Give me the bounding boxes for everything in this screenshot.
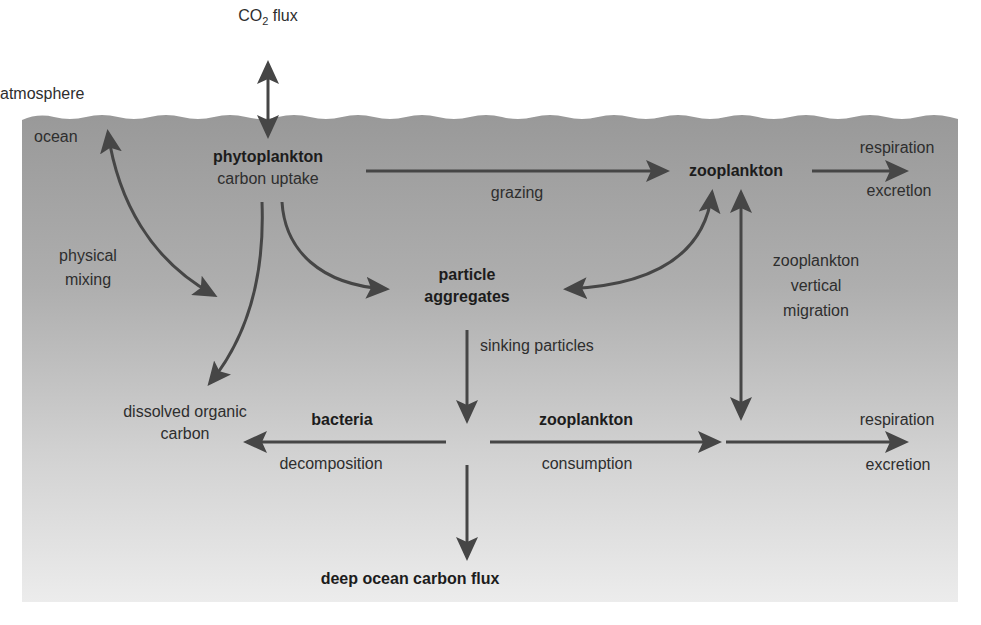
respiration-bottom-label: respiration (860, 410, 935, 430)
zooplankton-top-label: zooplankton (689, 161, 783, 181)
aggregates-label: aggregates (424, 287, 509, 307)
vertical-migration-line2: vertical (791, 276, 842, 296)
decomposition-label: decomposition (279, 454, 382, 474)
grazing-label: grazing (491, 183, 543, 203)
bacteria-label: bacteria (311, 410, 372, 430)
vertical-migration-line3: migration (783, 301, 849, 321)
consumption-label: consumption (542, 454, 633, 474)
co2-suffix: flux (268, 7, 297, 24)
physical-label: physical (59, 246, 117, 266)
carbon-uptake-label: carbon uptake (217, 169, 318, 189)
co2-prefix: CO (238, 7, 262, 24)
vertical-migration-line1: zooplankton (773, 251, 859, 271)
ocean-label: ocean (34, 127, 78, 147)
zooplankton-bottom-label: zooplankton (539, 410, 633, 430)
deep-ocean-flux-label: deep ocean carbon flux (321, 569, 500, 589)
sinking-particles-label: sinking particles (480, 336, 594, 356)
atmosphere-label: atmosphere (0, 84, 85, 104)
particle-label: particle (439, 265, 496, 285)
respiration-top-label: respiration (860, 138, 935, 158)
phytoplankton-label: phytoplankton (213, 147, 323, 167)
mixing-label: mixing (65, 270, 111, 290)
excretion-top-label: excretlon (867, 181, 932, 201)
doc-label-line1: dissolved organic (123, 402, 247, 422)
excretion-bottom-label: excretion (866, 455, 931, 475)
doc-label-line2: carbon (161, 424, 210, 444)
carbon-pump-diagram: CO2 flux atmosphere ocean phytoplankton … (0, 0, 981, 625)
co2-flux-label: CO2 flux (238, 6, 297, 26)
